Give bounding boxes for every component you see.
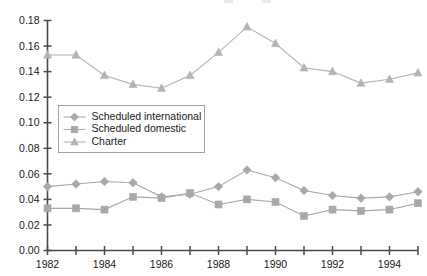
data-point-marker bbox=[158, 195, 165, 202]
data-point-marker bbox=[215, 201, 222, 208]
data-point-marker bbox=[385, 193, 394, 202]
data-point-marker bbox=[214, 182, 223, 191]
series-line bbox=[48, 27, 419, 88]
legend-marker-icon bbox=[71, 126, 78, 133]
y-tick-label: 0.14 bbox=[19, 65, 40, 77]
data-point-marker bbox=[129, 178, 138, 187]
legend-label: Scheduled international bbox=[92, 110, 202, 122]
data-point-marker bbox=[43, 182, 52, 191]
data-point-marker bbox=[301, 213, 308, 220]
data-point-marker bbox=[101, 206, 108, 213]
y-tick-label: 0.06 bbox=[19, 168, 40, 180]
chart-legend: Scheduled internationalScheduled domesti… bbox=[59, 106, 205, 153]
cropped-title-remnant bbox=[224, 0, 271, 3]
data-point-marker bbox=[187, 190, 194, 197]
data-point-marker bbox=[243, 22, 251, 30]
chart-canvas: 0.000.020.040.060.080.100.120.140.160.18… bbox=[0, 0, 427, 276]
data-point-marker bbox=[300, 186, 309, 195]
data-point-marker bbox=[73, 205, 80, 212]
x-tick-label: 1992 bbox=[321, 258, 345, 270]
data-point-marker bbox=[414, 68, 422, 76]
data-point-marker bbox=[357, 194, 366, 203]
data-point-marker bbox=[100, 71, 108, 79]
data-point-marker bbox=[100, 177, 109, 186]
x-tick-label: 1988 bbox=[207, 258, 231, 270]
data-point-marker bbox=[44, 205, 51, 212]
y-tick-label: 0.04 bbox=[19, 193, 40, 205]
data-point-marker bbox=[414, 187, 423, 196]
data-point-marker bbox=[272, 198, 279, 205]
x-tick-label: 1984 bbox=[93, 258, 117, 270]
y-tick-label: 0.00 bbox=[19, 244, 40, 256]
x-tick-label: 1994 bbox=[378, 258, 402, 270]
data-point-marker bbox=[300, 63, 308, 71]
y-tick-label: 0.16 bbox=[19, 40, 40, 52]
data-point-marker bbox=[271, 39, 279, 47]
y-tick-label: 0.10 bbox=[19, 116, 40, 128]
data-point-marker bbox=[43, 51, 51, 59]
data-point-marker bbox=[72, 51, 80, 59]
line-chart: 0.000.020.040.060.080.100.120.140.160.18… bbox=[0, 0, 427, 276]
y-tick-label: 0.18 bbox=[19, 14, 40, 26]
x-tick-label: 1986 bbox=[150, 258, 174, 270]
x-axis: 1982198419861988199019921994 bbox=[36, 246, 418, 270]
series-triangle bbox=[43, 22, 422, 91]
y-axis: 0.000.020.040.060.080.100.120.140.160.18 bbox=[19, 14, 51, 256]
x-tick-label: 1990 bbox=[264, 258, 288, 270]
data-point-marker bbox=[130, 193, 137, 200]
data-point-marker bbox=[244, 196, 251, 203]
data-point-marker bbox=[271, 173, 280, 182]
series-square bbox=[44, 190, 422, 220]
x-tick-label: 1982 bbox=[36, 258, 60, 270]
legend-label: Charter bbox=[92, 135, 128, 147]
data-point-marker bbox=[72, 180, 81, 189]
data-point-marker bbox=[328, 191, 337, 200]
data-point-marker bbox=[415, 200, 422, 207]
data-point-marker bbox=[329, 206, 336, 213]
series-diamond bbox=[43, 166, 422, 203]
data-point-marker bbox=[386, 206, 393, 213]
y-tick-label: 0.12 bbox=[19, 91, 40, 103]
y-tick-label: 0.02 bbox=[19, 219, 40, 231]
y-tick-label: 0.08 bbox=[19, 142, 40, 154]
legend-label: Scheduled domestic bbox=[92, 122, 187, 134]
data-point-marker bbox=[186, 71, 194, 79]
data-point-marker bbox=[358, 207, 365, 214]
data-point-marker bbox=[243, 166, 252, 175]
